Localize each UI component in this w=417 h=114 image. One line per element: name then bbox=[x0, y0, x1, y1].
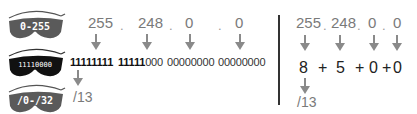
left-octet-4: 0 bbox=[235, 15, 243, 30]
left-prefix-result: /13 bbox=[73, 90, 92, 105]
glasses-label: /0-/32 bbox=[9, 95, 61, 106]
down-arrow-icon bbox=[300, 78, 310, 94]
down-arrow-icon bbox=[369, 35, 379, 51]
plus-sign: + bbox=[318, 60, 327, 76]
left-separator: . bbox=[218, 19, 222, 32]
glasses-prefix-icon: /0-/32 bbox=[3, 82, 67, 114]
left-separator: . bbox=[169, 19, 173, 32]
bit-count-4: 0 bbox=[393, 60, 402, 76]
binary-octet-3: 00000000 bbox=[167, 56, 214, 68]
left-octet-2: 248 bbox=[138, 15, 163, 30]
glasses-label: 0-255 bbox=[9, 21, 61, 32]
left-octet-3: 0 bbox=[185, 15, 193, 30]
glasses-label: 11110000 bbox=[9, 61, 61, 69]
bit-count-3: 0 bbox=[369, 60, 378, 76]
left-separator: . bbox=[120, 19, 124, 32]
down-arrow-icon bbox=[73, 70, 83, 86]
binary-regular-bits: 00000000 bbox=[218, 56, 265, 68]
down-arrow-icon bbox=[185, 34, 195, 50]
right-separator: . bbox=[382, 19, 386, 32]
right-octet-2: 248 bbox=[331, 15, 356, 30]
plus-sign: + bbox=[382, 60, 391, 76]
binary-octet-1: 11111111 bbox=[70, 56, 113, 68]
right-separator: . bbox=[357, 19, 361, 32]
down-arrow-icon bbox=[392, 35, 402, 51]
down-arrow-icon bbox=[335, 35, 345, 51]
bit-count-2: 5 bbox=[336, 60, 345, 76]
down-arrow-icon bbox=[235, 34, 245, 50]
binary-octet-2: 11111000 bbox=[118, 56, 163, 68]
plus-sign: + bbox=[355, 60, 364, 76]
right-octet-4: 0 bbox=[393, 15, 401, 30]
glasses-binary-icon: 11110000 bbox=[3, 46, 67, 78]
binary-regular-bits: 000 bbox=[145, 56, 163, 68]
down-arrow-icon bbox=[300, 35, 310, 51]
down-arrow-icon bbox=[142, 34, 152, 50]
binary-octet-4: 00000000 bbox=[218, 56, 265, 68]
right-prefix-result: /13 bbox=[297, 95, 316, 110]
right-octet-1: 255 bbox=[296, 15, 321, 30]
binary-regular-bits: 00000000 bbox=[167, 56, 214, 68]
binary-bold-bits: 11111 bbox=[118, 56, 145, 68]
right-separator: . bbox=[323, 19, 327, 32]
down-arrow-icon bbox=[91, 34, 101, 50]
right-octet-3: 0 bbox=[368, 15, 376, 30]
binary-bold-bits: 11111111 bbox=[70, 56, 113, 68]
section-divider bbox=[278, 15, 280, 105]
bit-count-1: 8 bbox=[299, 60, 308, 76]
left-octet-1: 255 bbox=[88, 15, 113, 30]
glasses-decimal-icon: 0-255 bbox=[3, 8, 67, 40]
